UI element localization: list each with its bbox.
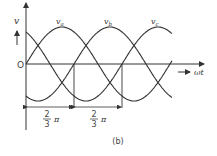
x-axis-label: ωt (194, 68, 205, 77)
svg-text:π: π (100, 115, 107, 124)
dimension-label-1: 2 3 π (43, 110, 60, 129)
svg-text:π: π (53, 115, 60, 124)
svg-text:2: 2 (91, 110, 96, 119)
three-phase-waveform-diagram: 2 3 π 2 3 π v O ωt va vb vc (b) (0, 0, 217, 156)
svg-text:3: 3 (44, 120, 49, 129)
figure-caption: (b) (112, 137, 123, 146)
origin-label: O (17, 60, 24, 70)
label-vb: vb (104, 17, 113, 27)
y-axis-label: v (14, 16, 19, 26)
svg-text:2: 2 (44, 110, 49, 119)
label-va: va (56, 17, 64, 27)
dimension-label-2: 2 3 π (90, 110, 107, 129)
label-vc: vc (151, 17, 159, 27)
svg-text:3: 3 (91, 120, 96, 129)
